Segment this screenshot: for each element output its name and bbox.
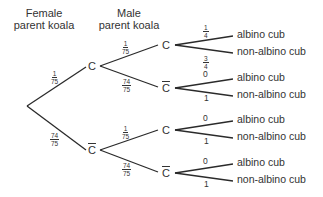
prob-C-to-Cbar: 74 75	[122, 78, 131, 93]
prob-Cbar-to-C: 1 75	[122, 125, 129, 140]
numerator: 3	[203, 55, 209, 63]
prob-leaf-4-albino: 0	[203, 157, 208, 166]
prob-leaf-3-albino: 0	[203, 114, 208, 123]
denominator: 75	[123, 170, 130, 177]
header-male-line2: parent koala	[96, 19, 162, 31]
numerator: 74	[50, 132, 59, 140]
leaf-albino-1: albino cub	[237, 29, 285, 40]
leaf-albino-4: albino cub	[237, 157, 285, 168]
prob-root-to-carrier: 1 75	[51, 70, 58, 85]
node-male-carrier-2: C	[162, 125, 170, 136]
header-female-line1: Female	[12, 7, 76, 19]
prob-Cbar-to-Cbar: 74 75	[122, 162, 131, 177]
prob-leaf-2-nonalbino: 1	[204, 94, 209, 103]
prob-root-to-noncarrier: 74 75	[50, 132, 59, 147]
numerator: 74	[122, 78, 131, 86]
numerator: 1	[52, 70, 58, 78]
denominator: 75	[123, 86, 130, 93]
leaf-nonalbino-2: non-albino cub	[237, 89, 306, 100]
node-male-noncarrier-2: C	[162, 168, 170, 179]
numerator: 1	[123, 40, 129, 48]
leaf-nonalbino-1: non-albino cub	[237, 46, 306, 57]
header-male-parent: Male parent koala	[96, 7, 162, 31]
prob-leaf-2-albino: 0	[203, 70, 208, 79]
denominator: 75	[122, 48, 129, 55]
leaf-nonalbino-3: non-albino cub	[237, 131, 306, 142]
prob-leaf-3-nonalbino: 1	[204, 137, 209, 146]
denominator: 75	[51, 78, 58, 85]
numerator: 74	[122, 162, 131, 170]
header-female-parent: Female parent koala	[12, 7, 76, 31]
header-female-line2: parent koala	[12, 19, 76, 31]
prob-C-to-C: 1 75	[122, 40, 129, 55]
header-male-line1: Male	[96, 7, 162, 19]
node-male-carrier-1: C	[162, 40, 170, 51]
leaf-nonalbino-4: non-albino cub	[237, 174, 306, 185]
node-female-noncarrier: C	[88, 145, 96, 156]
numerator: 1	[123, 125, 129, 133]
leaf-albino-3: albino cub	[237, 114, 285, 125]
leaf-albino-2: albino cub	[237, 72, 285, 83]
denominator: 4	[204, 32, 208, 39]
prob-leaf-1-albino: 1 4	[203, 24, 209, 39]
node-female-carrier: C	[88, 61, 96, 72]
denominator: 75	[51, 140, 58, 147]
prob-leaf-1-nonalbino: 3 4	[203, 55, 209, 70]
prob-leaf-4-nonalbino: 1	[204, 180, 209, 189]
denominator: 75	[122, 133, 129, 140]
node-male-noncarrier-1: C	[162, 83, 170, 94]
numerator: 1	[203, 24, 209, 32]
